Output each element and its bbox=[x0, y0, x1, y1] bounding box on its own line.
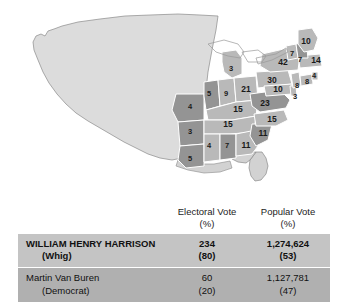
state-votes-MI: 3 bbox=[229, 64, 233, 73]
popular-vote-pct: (53) bbox=[246, 250, 330, 262]
popular-vote-cell: 1,127,781 (47) bbox=[246, 268, 330, 302]
results-table: Electoral Vote (%) Popular Vote (%) WILL… bbox=[18, 206, 330, 302]
header-popular-vote-unit: (%) bbox=[246, 218, 330, 230]
state-votes-SC: 11 bbox=[259, 128, 268, 138]
us-electoral-map-svg: 10771442488301033219541523151531111745 bbox=[0, 0, 340, 208]
state-votes-OH: 21 bbox=[241, 84, 251, 94]
state-votes-NJ: 8 bbox=[295, 81, 299, 90]
election-results-table: Electoral Vote (%) Popular Vote (%) WILL… bbox=[18, 206, 330, 302]
electoral-vote-cell: 234 (80) bbox=[168, 234, 246, 268]
electoral-vote-pct: (20) bbox=[168, 285, 246, 297]
state-votes-IL: 5 bbox=[207, 89, 211, 98]
state-votes-ME: 10 bbox=[301, 36, 311, 46]
state-votes-MD: 10 bbox=[273, 84, 283, 94]
candidate-name-cell: Martin Van Buren (Democrat) bbox=[18, 268, 168, 302]
candidate-party: (Democrat) bbox=[26, 285, 168, 297]
state-votes-TN: 15 bbox=[223, 119, 233, 129]
header-electoral-vote-unit: (%) bbox=[168, 218, 246, 230]
electoral-vote-value: 234 bbox=[199, 238, 215, 249]
table-body: WILLIAM HENRY HARRISON (Whig) 234 (80) 1… bbox=[18, 234, 330, 302]
header-candidate bbox=[18, 206, 168, 234]
table-row: WILLIAM HENRY HARRISON (Whig) 234 (80) 1… bbox=[18, 234, 330, 268]
electoral-vote-cell: 60 (20) bbox=[168, 268, 246, 302]
state-votes-NC: 15 bbox=[267, 114, 277, 124]
candidate-party: (Whig) bbox=[26, 250, 168, 262]
header-popular-vote-text: Popular Vote bbox=[261, 206, 315, 217]
popular-vote-pct: (47) bbox=[246, 285, 330, 297]
state-votes-DE: 3 bbox=[293, 92, 297, 101]
state-votes-IN: 9 bbox=[224, 89, 228, 98]
state-votes-KY: 15 bbox=[233, 104, 243, 114]
table-header-row: Electoral Vote (%) Popular Vote (%) bbox=[18, 206, 330, 234]
header-electoral-vote-text: Electoral Vote bbox=[178, 206, 237, 217]
table-row: Martin Van Buren (Democrat) 60 (20) 1,12… bbox=[18, 268, 330, 302]
table-head: Electoral Vote (%) Popular Vote (%) bbox=[18, 206, 330, 234]
florida-territory bbox=[232, 152, 268, 181]
popular-vote-cell: 1,274,624 (53) bbox=[246, 234, 330, 268]
candidate-name: WILLIAM HENRY HARRISON bbox=[26, 238, 155, 249]
popular-vote-value: 1,127,781 bbox=[267, 272, 309, 283]
electoral-map-figure: 10771442488301033219541523151531111745 bbox=[0, 0, 340, 208]
state-votes-CT: 8 bbox=[305, 77, 309, 86]
state-votes-MA: 14 bbox=[311, 55, 321, 65]
header-electoral-vote: Electoral Vote (%) bbox=[168, 206, 246, 234]
state-votes-VA: 23 bbox=[260, 98, 270, 108]
state-votes-LA: 5 bbox=[188, 154, 192, 163]
state-votes-AR: 3 bbox=[188, 127, 192, 136]
state-votes-NY: 42 bbox=[278, 57, 288, 67]
state-votes-VT: 7 bbox=[290, 49, 294, 58]
candidate-name-cell: WILLIAM HENRY HARRISON (Whig) bbox=[18, 234, 168, 268]
state-votes-GA: 11 bbox=[242, 140, 251, 150]
electoral-vote-value: 60 bbox=[202, 272, 213, 283]
candidate-name: Martin Van Buren bbox=[26, 272, 99, 283]
header-popular-vote: Popular Vote (%) bbox=[246, 206, 330, 234]
state-votes-AL: 7 bbox=[225, 141, 229, 150]
popular-vote-value: 1,274,624 bbox=[267, 238, 309, 249]
state-votes-NH: 7 bbox=[298, 55, 302, 64]
electoral-vote-pct: (80) bbox=[168, 250, 246, 262]
